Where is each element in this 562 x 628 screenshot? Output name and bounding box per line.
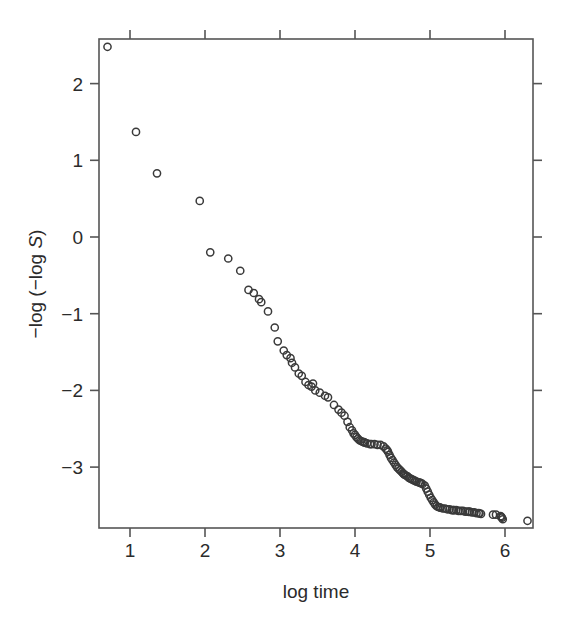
y-tick-label: −3 (61, 457, 83, 478)
y-tick-label: −1 (61, 304, 83, 325)
y-tick-label: −2 (61, 380, 83, 401)
x-axis-title: log time (283, 581, 350, 602)
x-tick-label: 6 (500, 540, 511, 561)
x-tick-label: 1 (125, 540, 136, 561)
plot-canvas: 123456 210−1−2−3 log time −log (−log S) (0, 0, 562, 628)
figure-background (0, 0, 562, 628)
x-tick-label: 3 (275, 540, 286, 561)
y-axis-title: −log (−log S) (25, 230, 46, 339)
x-tick-label: 4 (350, 540, 361, 561)
y-tick-label: 0 (72, 227, 83, 248)
scatter-plot-figure: 123456 210−1−2−3 log time −log (−log S) (0, 0, 562, 628)
y-tick-label: 1 (72, 150, 83, 171)
x-tick-label: 2 (200, 540, 211, 561)
y-tick-label: 2 (72, 74, 83, 95)
x-tick-label: 5 (425, 540, 436, 561)
